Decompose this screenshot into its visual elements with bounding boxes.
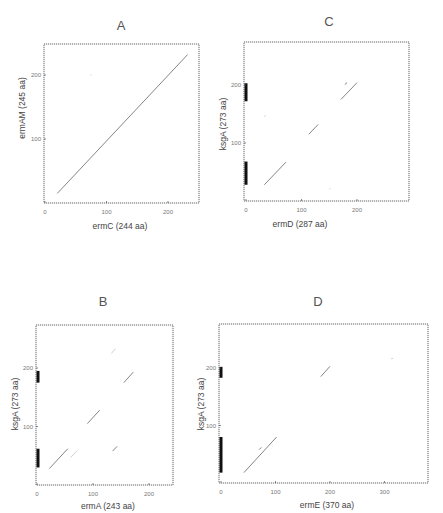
motif-bar [245,162,248,185]
similarity-segment [329,188,330,189]
panel-title: B [99,294,108,309]
x-tick-label: 0 [35,491,39,497]
x-tick-label: 100 [270,489,281,495]
y-tick-label: 100 [231,140,242,146]
motif-bar [220,367,223,378]
similarity-segment [124,372,134,383]
plot-area [245,83,358,190]
plot-area [220,358,394,472]
motif-bar [245,83,248,101]
y-tick-label: 100 [31,136,42,142]
x-tick-label: 200 [352,207,363,213]
figure: A 0100200 100200 ermC (244 aa) ermAM (24… [0,0,443,513]
similarity-segment [264,115,266,117]
panel-title: C [324,14,333,29]
plot-frame [244,42,409,201]
plot-area [57,55,187,194]
similarity-segment [391,358,393,359]
x-tick-label: 0 [219,489,223,495]
x-axis-label: ermE (370 aa) [300,500,354,510]
x-axis-label: ermA (243 aa) [81,501,135,511]
panel-title: D [313,294,322,309]
similarity-segment [87,410,99,423]
x-tick-label: 200 [163,209,174,215]
x-axis-label: ermC (244 aa) [93,221,148,231]
y-axis-label: ermAM (245 aa) [17,77,27,139]
y-tick-label: 200 [231,82,242,88]
x-tick-label: 300 [379,489,390,495]
motif-bar [37,371,40,383]
x-tick-label: 0 [244,207,248,213]
y-tick-label: 200 [23,365,34,371]
similarity-segment [244,437,277,473]
plot-frame [44,44,199,203]
similarity-segment [259,447,261,449]
x-tick-label: 200 [144,491,155,497]
similarity-segment [113,446,117,451]
panel-d: D 0100200300 100200 ermE (370 aa) ksgA (… [196,294,428,510]
y-axis-label: ksgA (273 aa) [10,378,20,431]
panel-title: A [117,18,126,33]
similarity-segment [345,83,347,85]
motif-bar [37,449,40,468]
similarity-segment [341,83,357,100]
similarity-segment [71,450,78,457]
y-axis-label: ksgA (273 aa) [196,378,206,431]
x-tick-label: 200 [325,489,336,495]
x-axis-label: ermD (287 aa) [273,219,328,229]
y-tick-label: 200 [31,72,42,78]
x-tick-label: 100 [88,491,99,497]
plot-area [37,349,134,469]
panel-b: B 0100200 100200 ermA (243 aa) ksgA (273… [10,294,173,511]
y-tick-label: 200 [206,365,217,371]
similarity-segment [49,449,67,469]
x-tick-label: 100 [296,207,307,213]
plot-frame [219,324,428,483]
similarity-segment [264,162,286,185]
similarity-segment [57,55,187,194]
y-tick-label: 100 [23,424,34,430]
panel-a: A 0100200 100200 ermC (244 aa) ermAM (24… [17,18,199,231]
y-axis-label: ksgA (273 aa) [218,98,228,151]
y-tick-label: 100 [206,423,217,429]
similarity-segment [111,349,115,354]
panel-c: C 0100200 100200 ermD (287 aa) ksgA (273… [218,14,409,229]
x-tick-label: 100 [101,209,112,215]
similarity-segment [321,366,330,376]
similarity-segment [309,124,318,134]
motif-bar [220,437,223,473]
similarity-segment [91,74,92,75]
x-tick-label: 0 [43,209,47,215]
